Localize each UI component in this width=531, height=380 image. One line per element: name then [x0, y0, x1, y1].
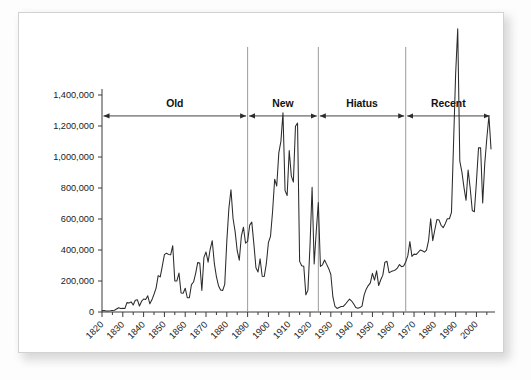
screenshot-root: 0200,000400,000600,000800,0001,000,0001,…: [0, 0, 531, 380]
y-tick-label: 1,200,000: [53, 121, 94, 131]
x-tick-label: 1880: [209, 319, 231, 341]
period-label: Old: [166, 98, 183, 109]
x-tick-label: 1890: [229, 319, 251, 341]
y-tick-label: 0: [89, 307, 94, 317]
x-tick-label: 2000: [458, 319, 480, 341]
data-series-immigration: [102, 29, 491, 311]
x-axis: 1820183018401850186018701880189019001910…: [84, 312, 495, 341]
x-tick-label: 1860: [167, 319, 189, 341]
x-tick-label: 1870: [188, 319, 210, 341]
immigration-line-chart: 0200,000400,000600,000800,0001,000,0001,…: [19, 13, 505, 354]
x-tick-label: 1830: [105, 319, 127, 341]
x-tick-label: 1940: [334, 319, 356, 341]
period-label: New: [272, 98, 294, 109]
x-tick-label: 1840: [125, 319, 147, 341]
x-tick-label: 1920: [292, 319, 314, 341]
x-tick-label: 1900: [250, 319, 272, 341]
y-axis: 0200,000400,000600,000800,0001,000,0001,…: [53, 89, 102, 317]
x-tick-label: 1950: [354, 319, 376, 341]
y-tick-label: 200,000: [61, 276, 94, 286]
period-label: Hiatus: [346, 98, 378, 109]
x-tick-label: 1930: [313, 319, 335, 341]
x-tick-label: 1970: [396, 319, 418, 341]
period-annotations: OldNewHiatusRecent: [104, 98, 490, 116]
period-divider-lines: [248, 47, 406, 312]
chart-card: 0200,000400,000600,000800,0001,000,0001,…: [18, 12, 504, 353]
period-label: Recent: [431, 98, 466, 109]
y-tick-label: 800,000: [61, 183, 94, 193]
x-tick-label: 1820: [84, 319, 106, 341]
x-tick-label: 1980: [417, 319, 439, 341]
x-tick-label: 1960: [375, 319, 397, 341]
x-tick-label: 1990: [438, 319, 460, 341]
y-tick-label: 1,000,000: [53, 152, 94, 162]
y-tick-label: 600,000: [61, 214, 94, 224]
y-tick-label: 1,400,000: [53, 90, 94, 100]
series-line-immigration: [102, 29, 491, 311]
y-tick-label: 400,000: [61, 245, 94, 255]
x-tick-label: 1850: [146, 319, 168, 341]
x-tick-label: 1910: [271, 319, 293, 341]
